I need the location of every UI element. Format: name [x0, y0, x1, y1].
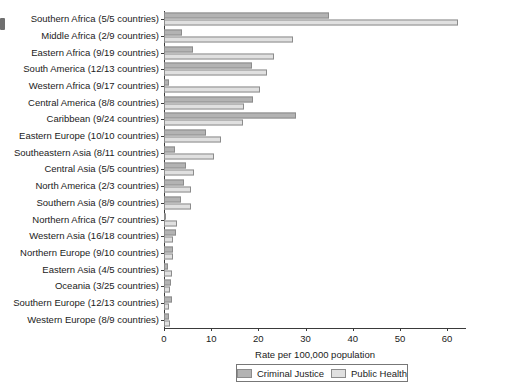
bar-group: Northern Europe (9/10 countries): [164, 245, 466, 262]
bar-criminal-justice: [164, 180, 184, 186]
scan-edge-artifact: [0, 18, 5, 30]
x-axis-tick: [353, 328, 354, 331]
y-axis-category-label: Oceania (3/25 countries): [55, 281, 159, 291]
bar-pair: [164, 163, 466, 176]
bar-pair: [164, 280, 466, 293]
bar-public-health: [164, 153, 214, 159]
x-axis-tick-label: 50: [395, 333, 406, 344]
legend-label-public-health: Public Health: [351, 368, 407, 379]
x-axis-tick-label: 0: [161, 333, 166, 344]
bar-public-health: [164, 320, 170, 326]
bar-public-health: [164, 270, 172, 276]
bar-pair: [164, 213, 466, 226]
bar-group: Oceania (3/25 countries): [164, 278, 466, 295]
bar-criminal-justice: [164, 163, 186, 169]
bar-public-health: [164, 137, 221, 143]
bar-pair: [164, 246, 466, 259]
bar-criminal-justice: [164, 196, 181, 202]
bar-criminal-justice: [164, 46, 193, 52]
legend-item-criminal-justice: Criminal Justice: [237, 368, 324, 379]
y-axis-category-label: South America (12/13 countries): [23, 64, 159, 74]
bar-public-health: [164, 20, 458, 26]
bar-public-health: [164, 253, 173, 259]
bar-chart: Southern Africa (5/5 countries)Middle Af…: [0, 0, 506, 392]
bar-group: Northern Africa (5/7 countries): [164, 211, 466, 228]
y-axis-category-label: Western Africa (9/17 countries): [29, 81, 159, 91]
bar-pair: [164, 180, 466, 193]
bar-group: Western Asia (16/18 countries): [164, 228, 466, 245]
bar-public-health: [164, 237, 173, 243]
bar-rows: Southern Africa (5/5 countries)Middle Af…: [164, 11, 466, 328]
bar-public-health: [164, 87, 260, 93]
y-axis-category-label: Western Asia (16/18 countries): [29, 231, 159, 241]
bar-pair: [164, 46, 466, 59]
bar-group: Southern Africa (5/5 countries): [164, 11, 466, 28]
legend-swatch-public-health: [331, 369, 346, 378]
y-axis-category-label: Eastern Africa (9/19 countries): [31, 48, 159, 58]
x-axis-ticks: 0102030405060: [164, 328, 466, 350]
bar-pair: [164, 63, 466, 76]
bar-pair: [164, 196, 466, 209]
bar-criminal-justice: [164, 230, 176, 236]
x-axis-tick-label: 30: [300, 333, 311, 344]
bar-pair: [164, 113, 466, 126]
chart-legend: Criminal Justice Public Health: [236, 364, 408, 382]
bar-group: North America (2/3 countries): [164, 178, 466, 195]
bar-criminal-justice: [164, 280, 171, 286]
bar-pair: [164, 96, 466, 109]
bar-group: Southern Asia (8/9 countries): [164, 195, 466, 212]
y-axis-category-label: Southern Europe (12/13 countries): [13, 298, 159, 308]
bar-public-health: [164, 303, 169, 309]
bar-pair: [164, 230, 466, 243]
y-axis-category-label: Southern Asia (8/9 countries): [36, 198, 159, 208]
bar-criminal-justice: [164, 296, 172, 302]
bar-public-health: [164, 70, 267, 76]
bar-group: Western Africa (9/17 countries): [164, 78, 466, 95]
bar-criminal-justice: [164, 63, 252, 69]
bar-criminal-justice: [164, 130, 206, 136]
bar-criminal-justice: [164, 313, 169, 319]
bar-group: Western Europe (8/9 countries): [164, 311, 466, 328]
bar-group: Middle Africa (2/9 countries): [164, 28, 466, 45]
bar-pair: [164, 13, 466, 26]
bar-pair: [164, 146, 466, 159]
bar-public-health: [164, 37, 293, 43]
bar-public-health: [164, 170, 194, 176]
x-axis-tick-label: 40: [347, 333, 358, 344]
bar-criminal-justice: [164, 80, 169, 86]
bar-group: Southern Europe (12/13 countries): [164, 295, 466, 312]
y-axis-category-label: Eastern Europe (10/10 countries): [19, 131, 159, 141]
y-axis-category-label: Southern Africa (5/5 countries): [31, 14, 159, 24]
x-axis-tick: [400, 328, 401, 331]
bar-public-health: [164, 203, 191, 209]
bar-group: Southeastern Asia (8/11 countries): [164, 144, 466, 161]
bar-group: Eastern Africa (9/19 countries): [164, 44, 466, 61]
legend-item-public-health: Public Health: [331, 368, 407, 379]
bar-criminal-justice: [164, 146, 175, 152]
bar-criminal-justice: [164, 30, 182, 36]
y-axis-category-label: Caribbean (9/24 countries): [47, 114, 159, 124]
x-axis-tick: [447, 328, 448, 331]
bar-pair: [164, 296, 466, 309]
x-axis-tick: [306, 328, 307, 331]
x-axis-tick-label: 60: [442, 333, 453, 344]
bar-criminal-justice: [164, 213, 166, 219]
legend-swatch-criminal-justice: [237, 369, 252, 378]
plot-area: Southern Africa (5/5 countries)Middle Af…: [164, 11, 466, 328]
bar-criminal-justice: [164, 96, 253, 102]
bar-criminal-justice: [164, 13, 329, 19]
bar-group: Caribbean (9/24 countries): [164, 111, 466, 128]
bar-pair: [164, 130, 466, 143]
y-axis-category-label: Eastern Asia (4/5 countries): [42, 265, 159, 275]
bar-public-health: [164, 120, 243, 126]
bar-public-health: [164, 287, 170, 293]
x-axis-tick: [211, 328, 212, 331]
bar-group: South America (12/13 countries): [164, 61, 466, 78]
bar-group: Eastern Asia (4/5 countries): [164, 261, 466, 278]
bar-criminal-justice: [164, 246, 173, 252]
legend-label-criminal-justice: Criminal Justice: [257, 368, 324, 379]
x-axis-tick: [164, 328, 165, 331]
y-axis-category-label: Southeastern Asia (8/11 countries): [14, 148, 159, 158]
bar-criminal-justice: [164, 113, 296, 119]
x-axis-title: Rate per 100,000 population: [164, 349, 466, 360]
